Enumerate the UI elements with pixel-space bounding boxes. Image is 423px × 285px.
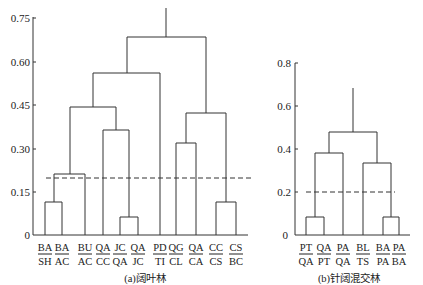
- leaf-top: BU: [78, 242, 93, 253]
- right-y-tick-labels: 0.8 0.6 0.4 0.2 0: [277, 57, 291, 241]
- right-dendrogram-links: [306, 88, 399, 235]
- leaf-top: CS: [230, 242, 243, 253]
- leaf-top: PT: [300, 242, 313, 253]
- ytick: 0.6: [277, 100, 291, 112]
- leaf-top: PA: [393, 242, 406, 253]
- leaf-top: PD: [153, 242, 167, 253]
- leaf-bottom: AC: [55, 256, 70, 267]
- ytick: 0.75: [11, 12, 31, 24]
- leaf-top: JC: [114, 242, 125, 253]
- leaf-top: BA: [376, 242, 391, 253]
- leaf-bottom: AC: [78, 256, 93, 267]
- leaf-bottom: TS: [357, 256, 369, 267]
- leaf-top: PA: [337, 242, 350, 253]
- ytick: 0.45: [11, 99, 31, 111]
- leaf-top: QA: [316, 242, 332, 253]
- ytick: 0.30: [11, 143, 31, 155]
- leaf-top: CC: [209, 242, 223, 253]
- left-dendrogram-links: [45, 8, 236, 235]
- leaf-top: BA: [38, 242, 53, 253]
- leaf-bottom: CA: [189, 256, 204, 267]
- ytick: 0: [25, 229, 31, 241]
- leaf-top: QG: [168, 242, 184, 253]
- right-leaf-labels: PT QA QA PT PA QA BL TS BA PA PA BA: [298, 242, 406, 267]
- leaf-bottom: QA: [335, 256, 351, 267]
- ytick: 0: [283, 229, 289, 241]
- left-chart-caption: (a)阔叶林: [124, 272, 167, 285]
- ytick: 0.4: [277, 143, 291, 155]
- leaf-top: BA: [55, 242, 70, 253]
- left-y-tick-labels: 0.75 0.60 0.45 0.30 0.15 0: [11, 12, 31, 241]
- leaf-bottom: BC: [229, 256, 243, 267]
- leaf-bottom: CC: [96, 256, 110, 267]
- leaf-bottom: PT: [318, 256, 331, 267]
- leaf-bottom: TI: [155, 256, 165, 267]
- right-chart-caption: (b)针阔混交林: [318, 272, 381, 285]
- leaf-top: QA: [95, 242, 111, 253]
- leaf-bottom: CL: [169, 256, 182, 267]
- ytick: 0.2: [277, 186, 291, 198]
- ytick: 0.60: [11, 56, 31, 68]
- leaf-top: QA: [130, 242, 146, 253]
- leaf-top: QA: [188, 242, 204, 253]
- leaf-bottom: BA: [392, 256, 407, 267]
- leaf-bottom: QA: [298, 256, 314, 267]
- ytick: 0.8: [277, 57, 291, 69]
- ytick: 0.15: [11, 186, 31, 198]
- leaf-bottom: CS: [210, 256, 223, 267]
- leaf-bottom: PA: [377, 256, 390, 267]
- leaf-bottom: JC: [132, 256, 143, 267]
- dendrogram-figure: 0.75 0.60 0.45 0.30 0.15 0 BA SH BA AC B…: [0, 0, 423, 285]
- leaf-bottom: SH: [38, 256, 52, 267]
- leaf-top: BL: [356, 242, 369, 253]
- leaf-bottom: QA: [112, 256, 128, 267]
